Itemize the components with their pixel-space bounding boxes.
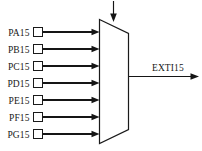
port-label-pa15: PA15 <box>8 28 29 38</box>
port-box-pa15 <box>34 28 43 37</box>
input-wire-pe15 <box>43 97 100 103</box>
port-box-pg15 <box>34 130 43 139</box>
port-label-pb15: PB15 <box>8 45 30 55</box>
exti15-mux-diagram: PA15 PB15 PC15 PD15 PE15 <box>0 0 202 151</box>
port-label-pe15: PE15 <box>9 96 30 106</box>
port-label-pd15: PD15 <box>7 79 29 89</box>
port-box-pd15 <box>34 79 43 88</box>
input-wire-pf15 <box>43 114 100 120</box>
port-label-pc15: PC15 <box>8 62 30 72</box>
port-label-pf15: PF15 <box>9 113 30 123</box>
input-wire-pb15 <box>43 46 100 52</box>
output-wire-exti15 <box>129 73 200 80</box>
input-wire-pd15 <box>43 80 100 86</box>
port-box-pf15 <box>34 113 43 122</box>
output-label-exti15: EXTI15 <box>152 63 184 73</box>
port-box-pc15 <box>34 62 43 71</box>
port-label-pg15: PG15 <box>7 130 29 140</box>
input-wire-pa15 <box>43 29 100 35</box>
multiplexer-body <box>100 20 129 144</box>
port-box-pb15 <box>34 45 43 54</box>
input-wire-pc15 <box>43 63 100 69</box>
control-select-arrow <box>110 1 117 22</box>
port-box-pe15 <box>34 96 43 105</box>
diagram-canvas: PA15 PB15 PC15 PD15 PE15 <box>0 0 202 151</box>
input-wire-pg15 <box>43 131 100 137</box>
